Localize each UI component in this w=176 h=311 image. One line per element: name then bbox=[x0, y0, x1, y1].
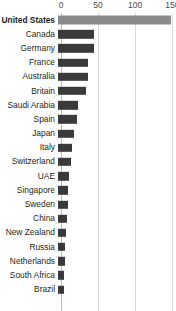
category-label-saudi-arabia: Saudi Arabia bbox=[0, 101, 58, 110]
category-label-australia: Australia bbox=[0, 72, 58, 81]
bar-canada bbox=[58, 30, 94, 38]
category-label-united-states: United States bbox=[0, 16, 58, 25]
bar-row: Singapore bbox=[0, 183, 176, 197]
bar-cell bbox=[58, 70, 176, 84]
category-label-sweden: Sweden bbox=[0, 200, 58, 209]
category-label-canada: Canada bbox=[0, 30, 58, 39]
category-label-new-zealand: New Zealand bbox=[0, 228, 58, 237]
bar-cell bbox=[58, 112, 176, 126]
bar-row: China bbox=[0, 212, 176, 226]
bar-new-zealand bbox=[58, 229, 66, 237]
bar-australia bbox=[58, 73, 88, 81]
category-label-switzerland: Switzerland bbox=[0, 157, 58, 166]
category-label-japan: Japan bbox=[0, 129, 58, 138]
bar-row: New Zealand bbox=[0, 226, 176, 240]
x-tick-label-0: 0 bbox=[59, 0, 64, 11]
bar-cell bbox=[58, 155, 176, 169]
bar-cell bbox=[58, 254, 176, 268]
bar-row: United States bbox=[0, 13, 176, 27]
bar-row: Switzerland bbox=[0, 155, 176, 169]
bar-cell bbox=[58, 127, 176, 141]
bar-row: Brazil bbox=[0, 283, 176, 297]
bar-germany bbox=[58, 44, 94, 52]
horizontal-bar-chart: 050100150 United StatesCanadaGermanyFran… bbox=[0, 0, 176, 311]
bar-cell bbox=[58, 13, 176, 27]
bar-south-africa bbox=[58, 271, 64, 279]
bar-row: Canada bbox=[0, 27, 176, 41]
bar-row: Italy bbox=[0, 141, 176, 155]
bar-netherlands bbox=[58, 257, 65, 265]
category-label-france: France bbox=[0, 58, 58, 67]
category-label-china: China bbox=[0, 214, 58, 223]
bar-saudi-arabia bbox=[58, 101, 78, 109]
bar-cell bbox=[58, 84, 176, 98]
bar-cell bbox=[58, 56, 176, 70]
bar-singapore bbox=[58, 186, 68, 194]
category-label-netherlands: Netherlands bbox=[0, 257, 58, 266]
category-label-germany: Germany bbox=[0, 44, 58, 53]
bar-italy bbox=[58, 144, 72, 152]
bar-cell bbox=[58, 283, 176, 297]
bar-united-states bbox=[58, 16, 171, 25]
category-label-uae: UAE bbox=[0, 172, 58, 181]
bar-row: Netherlands bbox=[0, 254, 176, 268]
bar-row: UAE bbox=[0, 169, 176, 183]
category-label-south-africa: South Africa bbox=[0, 271, 58, 280]
category-label-brazil: Brazil bbox=[0, 285, 58, 294]
bar-row: Australia bbox=[0, 70, 176, 84]
bar-cell bbox=[58, 183, 176, 197]
category-label-spain: Spain bbox=[0, 115, 58, 124]
x-tick-label-100: 100 bbox=[128, 0, 142, 11]
bar-cell bbox=[58, 226, 176, 240]
bar-row: Britain bbox=[0, 84, 176, 98]
bar-row: Sweden bbox=[0, 197, 176, 211]
bar-cell bbox=[58, 197, 176, 211]
bar-row: Japan bbox=[0, 127, 176, 141]
bar-sweden bbox=[58, 200, 68, 208]
category-label-russia: Russia bbox=[0, 243, 58, 252]
bar-china bbox=[58, 215, 67, 223]
bar-britain bbox=[58, 87, 86, 95]
bar-uae bbox=[58, 172, 69, 180]
bar-spain bbox=[58, 115, 77, 123]
bar-brazil bbox=[58, 285, 64, 293]
bar-row: Spain bbox=[0, 112, 176, 126]
bar-row: Germany bbox=[0, 41, 176, 55]
x-tick-label-150: 150 bbox=[165, 0, 176, 11]
bar-row: France bbox=[0, 56, 176, 70]
x-tick-label-50: 50 bbox=[93, 0, 102, 11]
bar-france bbox=[58, 58, 88, 66]
bar-russia bbox=[58, 243, 65, 251]
bar-row: Saudi Arabia bbox=[0, 98, 176, 112]
category-label-singapore: Singapore bbox=[0, 186, 58, 195]
category-label-britain: Britain bbox=[0, 87, 58, 96]
x-axis-tick-labels: 050100150 bbox=[61, 0, 176, 13]
bar-row: Russia bbox=[0, 240, 176, 254]
bar-cell bbox=[58, 27, 176, 41]
bar-cell bbox=[58, 268, 176, 282]
bar-cell bbox=[58, 141, 176, 155]
category-label-italy: Italy bbox=[0, 143, 58, 152]
bar-cell bbox=[58, 98, 176, 112]
bar-rows: United StatesCanadaGermanyFranceAustrali… bbox=[0, 13, 176, 297]
bar-switzerland bbox=[58, 158, 71, 166]
bar-cell bbox=[58, 240, 176, 254]
bar-row: South Africa bbox=[0, 268, 176, 282]
bar-cell bbox=[58, 169, 176, 183]
bar-japan bbox=[58, 129, 74, 137]
bar-cell bbox=[58, 41, 176, 55]
bar-cell bbox=[58, 212, 176, 226]
